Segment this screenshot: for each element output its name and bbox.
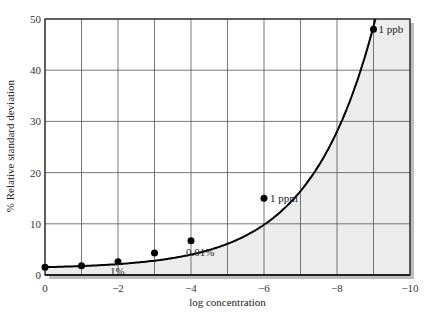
x-tick: −10 [401,282,419,294]
data-point [42,264,49,271]
x-tick: −6 [258,282,270,294]
data-point [370,26,377,33]
y-tick: 20 [30,167,42,179]
data-point [78,262,85,269]
data-point [188,237,195,244]
y-tick: 40 [30,64,42,76]
x-tick: −4 [185,282,197,294]
y-axis-label: % Relative standard deviation [4,66,16,226]
x-tick: −8 [331,282,343,294]
chart: 010203040500−2−4−6−8−101%0.01%1 ppm1 ppb [0,0,429,322]
y-tick: 50 [30,13,42,25]
point-annotation: 1 ppm [270,192,298,204]
y-tick: 10 [30,218,42,230]
y-tick: 0 [36,269,42,281]
data-point [261,195,268,202]
y-tick: 30 [30,115,42,127]
x-tick: −2 [112,282,124,294]
x-tick: 0 [42,282,48,294]
point-annotation: 1% [110,265,125,277]
data-point [151,249,158,256]
point-annotation: 1 ppb [379,23,404,35]
x-axis-label: log concentration [0,296,429,308]
point-annotation: 0.01% [186,246,214,258]
